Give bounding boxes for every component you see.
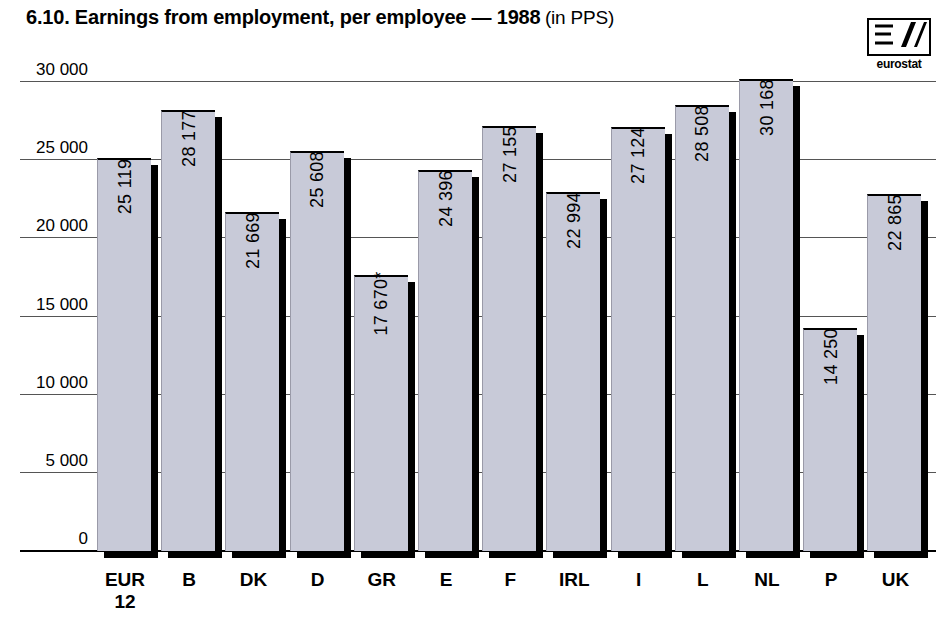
bar-value-label: 27 155: [499, 127, 520, 184]
x-axis-category-eur-12: EUR12: [93, 569, 157, 613]
x-axis-category-gr: GR: [350, 569, 414, 591]
x-axis-category-irl: IRL: [542, 569, 606, 591]
y-axis-tick-label-20000: 20 000: [8, 216, 88, 236]
bar-shadow-right: [921, 201, 928, 558]
bar-uk[interactable]: 22 865: [867, 194, 921, 551]
bar-nl[interactable]: 30 168: [739, 79, 793, 551]
bar-shadow-bottom: [425, 551, 479, 558]
x-axis-category-nl: NL: [735, 569, 799, 591]
bar-shadow-bottom: [874, 551, 928, 558]
y-axis-tick-label-25000: 25 000: [8, 138, 88, 158]
bar-shadow-bottom: [553, 551, 607, 558]
category-label-line1: I: [607, 569, 671, 591]
bar-value-label: 21 669: [242, 212, 263, 269]
category-label-line1: P: [799, 569, 863, 591]
bar-value-label: 30 168: [756, 79, 777, 136]
bar-eur-12[interactable]: 25 119: [97, 158, 151, 551]
category-label-line2: 12: [93, 591, 157, 613]
category-label-line1: B: [157, 569, 221, 591]
bar-shadow-right: [857, 335, 864, 558]
bar-dk[interactable]: 21 669: [225, 212, 279, 551]
bar-b[interactable]: 28 177: [161, 110, 215, 551]
bar-l[interactable]: 28 508: [675, 105, 729, 551]
category-label-line1: D: [286, 569, 350, 591]
category-label-line1: GR: [350, 569, 414, 591]
bar-shadow-right: [536, 133, 543, 558]
bar-value-label: 17 670*: [371, 271, 392, 335]
bar-chart: 05 00010 00015 00020 00025 00030 00025 1…: [0, 0, 940, 640]
bar-p[interactable]: 14 250: [803, 328, 857, 551]
bar-shadow-bottom: [682, 551, 736, 558]
bar-value-label: 28 177: [178, 111, 199, 168]
bar-shadow-bottom: [297, 551, 351, 558]
bar-shadow-right: [151, 165, 158, 558]
category-label-line1: IRL: [542, 569, 606, 591]
category-label-line1: F: [478, 569, 542, 591]
bar-shadow-bottom: [361, 551, 415, 558]
category-label-line1: DK: [221, 569, 285, 591]
category-label-line1: E: [414, 569, 478, 591]
bar-shadow-bottom: [232, 551, 286, 558]
bar-shadow-bottom: [810, 551, 864, 558]
bar-shadow-right: [408, 282, 415, 558]
gridline-30000: [20, 81, 936, 82]
bar-shadow-right: [665, 134, 672, 558]
x-axis-category-b: B: [157, 569, 221, 591]
bar-i[interactable]: 27 124: [611, 127, 665, 551]
bar-shadow-bottom: [618, 551, 672, 558]
bar-shadow-right: [472, 177, 479, 558]
bar-shadow-bottom: [489, 551, 543, 558]
bar-irl[interactable]: 22 994: [546, 192, 600, 551]
bar-d[interactable]: 25 608: [290, 151, 344, 551]
x-axis-category-l: L: [671, 569, 735, 591]
bar-shadow-right: [729, 112, 736, 558]
x-axis-category-f: F: [478, 569, 542, 591]
bar-value-label: 25 608: [307, 151, 328, 208]
x-axis-category-uk: UK: [863, 569, 927, 591]
x-axis-category-i: I: [607, 569, 671, 591]
x-axis-category-dk: DK: [221, 569, 285, 591]
bar-shadow-bottom: [746, 551, 800, 558]
category-label-line1: UK: [863, 569, 927, 591]
y-axis-tick-label-30000: 30 000: [8, 60, 88, 80]
bar-shadow-right: [215, 117, 222, 558]
category-label-line1: NL: [735, 569, 799, 591]
bar-shadow-right: [600, 199, 607, 558]
bar-shadow-right: [793, 86, 800, 558]
y-axis-tick-label-10000: 10 000: [8, 373, 88, 393]
bar-shadow-right: [279, 219, 286, 558]
bar-shadow-bottom: [168, 551, 222, 558]
x-axis-category-d: D: [286, 569, 350, 591]
x-axis-category-p: P: [799, 569, 863, 591]
bar-f[interactable]: 27 155: [482, 126, 536, 551]
bar-value-label: 25 119: [114, 159, 135, 215]
y-axis-tick-label-0: 0: [8, 529, 88, 549]
bar-value-label: 28 508: [692, 105, 713, 162]
category-label-line1: L: [671, 569, 735, 591]
x-axis-category-e: E: [414, 569, 478, 591]
bar-gr[interactable]: 17 670*: [354, 275, 408, 551]
bar-value-label: 22 994: [563, 192, 584, 249]
bar-shadow-bottom: [104, 551, 158, 558]
bar-value-label: 14 250: [820, 328, 841, 385]
y-axis-tick-label-5000: 5 000: [8, 451, 88, 471]
category-label-line1: EUR: [93, 569, 157, 591]
bar-shadow-right: [344, 158, 351, 558]
bar-value-label: 22 865: [884, 194, 905, 251]
bar-value-label: 27 124: [628, 127, 649, 184]
bar-value-label: 24 396: [435, 170, 456, 227]
bar-e[interactable]: 24 396: [418, 170, 472, 551]
y-axis-tick-label-15000: 15 000: [8, 295, 88, 315]
